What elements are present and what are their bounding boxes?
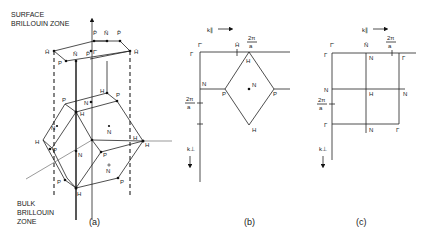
label-h: H [77,191,81,197]
label-gamma: Γ [324,122,328,128]
point-n [56,125,58,127]
panel-a: SURFACE BRILLOUIN ZONE P̄ N̄ P̄ H̄ H̄ P … [11,11,172,227]
label-n: N [84,100,88,106]
point-h [75,111,78,114]
point-h [91,139,94,142]
label-h: H [35,139,39,145]
k-perp-label: k⊥ [319,146,327,152]
label-n: N [202,81,206,87]
label-p: P [116,92,120,98]
label-p-bar: P̄ [93,30,97,36]
point-n-center [248,88,251,91]
label-n: N [106,168,110,174]
label-p: P [62,97,66,103]
label-a: a [187,104,191,110]
label-p: P [57,179,61,185]
label-p: P [103,152,107,158]
point-p-front [65,60,68,63]
label-a: a [388,43,392,49]
label-n: N [78,152,82,158]
label-gamma-bar: Γ̄ [198,42,202,48]
label-h: H [80,111,84,117]
label-h: H [246,58,250,64]
caption-a: (a) [89,217,100,227]
label-p: P [53,147,57,153]
point-n-hollow [108,164,110,166]
point-n [108,125,110,127]
surface-zone-title-1: SURFACE [11,11,44,18]
label-h: H [133,135,137,141]
label-n: N [324,87,328,93]
k-parallel-label: k∥ [207,27,213,34]
label-2pi: 2π [248,35,255,41]
bulk-left-upper [43,104,76,148]
point-p-bar-left [93,40,96,43]
bulk-zone-title-3: ZONE [17,218,37,225]
label-n: N [51,125,55,131]
label-n: N [369,55,373,61]
label-h-bar: H̄ [134,49,138,55]
label-h: H [369,91,373,97]
brillouin-zone-figure: SURFACE BRILLOUIN ZONE P̄ N̄ P̄ H̄ H̄ P … [0,0,429,238]
label-gamma-bar: Γ̄ [330,42,334,48]
panel-c: k∥ Γ̄ N̄ 2π a Γ N Γ N H N 2π a Γ N Γ k⊥ … [317,27,416,227]
point-n-bar-top [106,40,109,43]
label-p: P [222,91,226,97]
surface-zone-title-2: BRILLOUIN ZONE [11,20,70,27]
label-h: H [100,88,104,94]
label-h: H [145,142,149,148]
panel-b: k∥ Γ̄ H̄ 2π a Γ N 2π a P N P H H k⊥ (b) [185,27,290,227]
bulk-right-lower [76,141,143,188]
label-n-bar: N̄ [364,42,368,48]
point-h [75,187,78,190]
label-gamma-bar: Γ̄ [93,49,97,55]
point-n [75,150,78,153]
bulk-left-lower-inner [52,148,76,188]
caption-b: (b) [244,217,255,227]
label-a: a [249,43,253,49]
label-n: N [369,127,373,133]
label-p-bar: P̄ [117,30,121,36]
label-h-bar: H̄ [45,49,49,55]
point-p-bar-right [119,40,122,43]
point-p [64,179,67,182]
k-parallel-label: k∥ [362,27,368,34]
label-p: P [273,91,277,97]
point-h [106,92,109,95]
bulk-center-diamond [76,112,101,188]
point-n [90,101,93,104]
label-n: N [107,129,111,135]
diagonal-axis [26,140,92,179]
bulk-zone-title-1: BULK [17,200,36,207]
caption-c: (c) [356,217,367,227]
point-p [117,177,120,180]
label-2pi: 2π [387,35,394,41]
label-gamma: Γ [190,51,194,57]
label-p-bar: P̄ [86,51,90,57]
label-2pi: 2π [318,97,325,103]
label-a: a [319,105,323,111]
label-h: H [252,127,256,133]
label-n-bar: N̄ [73,51,77,57]
k-perp-label: k⊥ [187,146,195,152]
label-gamma: Γ [324,52,328,58]
label-gamma: Γ [402,55,406,61]
label-h-bar: H̄ [235,42,239,48]
point-gamma-bar [90,50,93,53]
label-gamma: Γ [396,127,400,133]
point-p [116,100,119,103]
point-p [100,151,103,154]
label-n: N [403,91,407,97]
bulk-zone-title-2: BRILLOUIN [17,209,54,216]
label-n-bar: N̄ [104,30,108,36]
label-n: N [252,82,256,88]
label-2pi: 2π [186,96,193,102]
label-p: P [58,60,62,66]
point-p [49,148,52,151]
label-p: P [120,179,124,185]
